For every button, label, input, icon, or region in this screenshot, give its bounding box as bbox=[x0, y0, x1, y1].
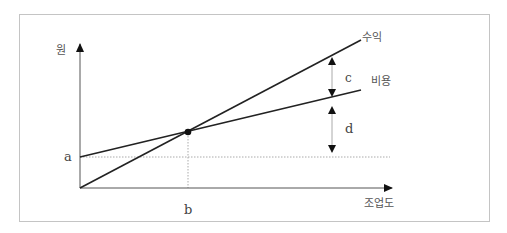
marker-c: c bbox=[345, 72, 352, 84]
d-arrow-up-icon bbox=[328, 106, 336, 114]
cost-line bbox=[80, 90, 361, 157]
y-axis-label: 원 bbox=[56, 45, 66, 56]
revenue-line bbox=[80, 40, 361, 188]
x-axis-label: 조업도 bbox=[364, 198, 394, 209]
d-arrow-down-icon bbox=[328, 145, 336, 153]
cost-label: 비용 bbox=[371, 76, 391, 87]
break-even-point bbox=[185, 129, 192, 136]
marker-d: d bbox=[345, 122, 353, 135]
c-arrow-up-icon bbox=[328, 57, 336, 65]
marker-a: a bbox=[64, 150, 72, 163]
revenue-label: 수익 bbox=[362, 32, 382, 43]
break-even-diagram bbox=[0, 0, 507, 233]
marker-b: b bbox=[184, 203, 192, 216]
